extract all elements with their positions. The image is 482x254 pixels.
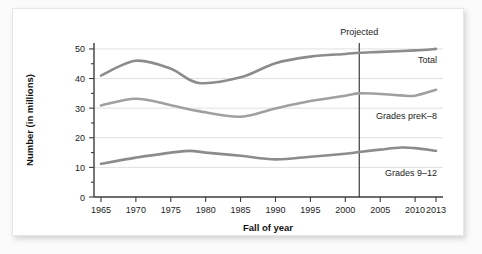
series-line-total [101,49,436,83]
x-tick-label-2005: 2005 [370,205,390,215]
x-tick-label-1995: 1995 [300,205,320,215]
series-line-grades912 [101,147,436,163]
x-axis-tick-labels: 1965197019751980198519901995200020052010… [91,205,446,215]
y-tick-label-10: 10 [75,163,85,173]
series-label-prek8: Grades preK–8 [376,111,437,121]
x-tick-label-1985: 1985 [231,205,251,215]
y-axis-ticks [89,49,94,197]
x-axis-title: Fall of year [243,222,293,233]
x-tick-label-1980: 1980 [196,205,216,215]
y-tick-label-20: 20 [75,133,85,143]
y-axis-tick-labels: 01020304050 [75,44,85,202]
x-tick-label-1990: 1990 [265,205,285,215]
y-tick-label-50: 50 [75,44,85,54]
x-tick-label-2000: 2000 [335,205,355,215]
x-tick-label-2010: 2010 [405,205,425,215]
projected-label: Projected [340,27,378,37]
figure-card: 01020304050 1965197019751980198519901995… [0,0,482,254]
y-tick-label-30: 30 [75,104,85,114]
x-tick-label-1965: 1965 [91,205,111,215]
x-tick-label-1975: 1975 [161,205,181,215]
y-tick-label-0: 0 [80,193,85,203]
y-axis-title: Number (in millions) [24,74,35,166]
series-label-grades912: Grades 9–12 [385,168,437,178]
x-tick-label-1970: 1970 [126,205,146,215]
x-axis-ticks [101,197,436,202]
line-chart: 01020304050 1965197019751980198519901995… [13,9,465,237]
series-label-total: Total [418,55,437,65]
x-tick-label-2013: 2013 [426,205,446,215]
y-tick-label-40: 40 [75,74,85,84]
figure-frame: 01020304050 1965197019751980198519901995… [12,8,464,236]
